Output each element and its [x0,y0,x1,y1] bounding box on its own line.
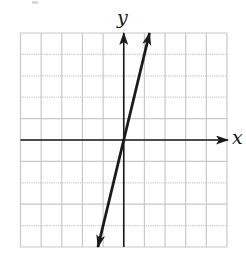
x-axis-label: x [232,128,243,147]
y-axis-label: y [117,8,128,27]
coordinate-plane [0,0,246,264]
